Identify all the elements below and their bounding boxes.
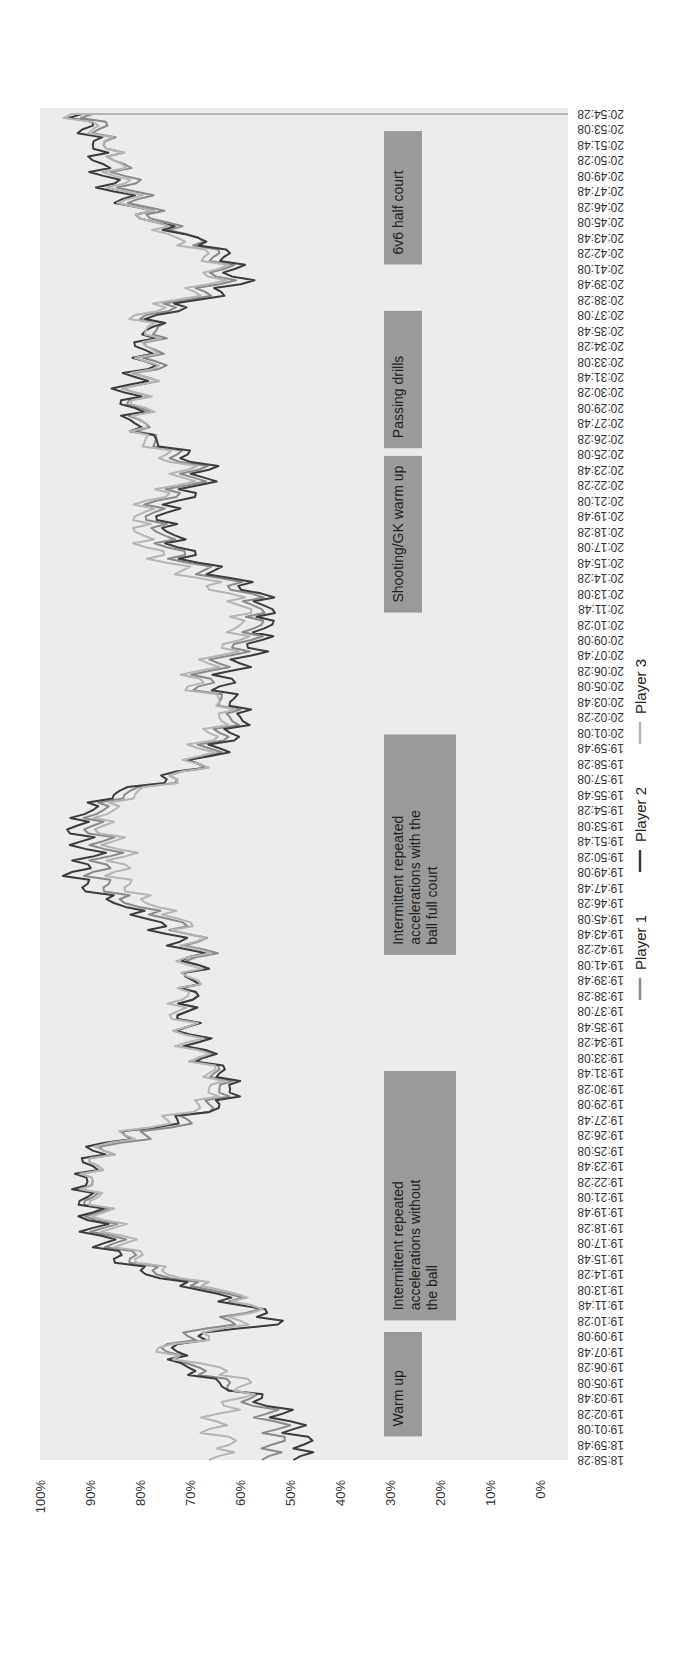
x-tick-label: 20:05:08 <box>577 679 624 693</box>
x-tick-label: 20:45:08 <box>577 215 624 229</box>
x-tick-label: 19:11:48 <box>578 1298 624 1312</box>
x-tick-label: 20:49:08 <box>577 169 624 183</box>
x-tick-label: 19:26:28 <box>577 1128 624 1142</box>
x-tick-label: 19:45:08 <box>577 912 624 926</box>
x-tick-label: 20:25:08 <box>577 447 624 461</box>
x-tick-label: 20:13:08 <box>577 587 624 601</box>
x-tick-label: 19:59:48 <box>577 741 624 755</box>
x-tick-label: 18:59:48 <box>577 1438 624 1452</box>
x-tick-label: 20:46:28 <box>577 200 624 214</box>
x-tick-label: 20:33:08 <box>577 355 624 369</box>
x-tick-label: 19:51:48 <box>577 834 624 848</box>
y-tick-label: 50% <box>283 1480 298 1506</box>
x-tick-label: 19:53:08 <box>577 819 624 833</box>
x-tick-label: 19:58:28 <box>577 757 624 771</box>
annotation-box: Intermittent repeatedaccelerations witho… <box>384 1071 456 1320</box>
x-tick-label: 20:50:28 <box>577 153 624 167</box>
x-tick-label: 19:27:48 <box>577 1113 624 1127</box>
legend-item: Player 3 <box>632 659 649 744</box>
x-tick-label: 19:17:08 <box>577 1236 624 1250</box>
x-tick-label: 20:19:48 <box>577 509 624 523</box>
x-tick-label: 19:10:28 <box>577 1314 624 1328</box>
x-tick-label: 19:33:08 <box>577 1051 624 1065</box>
x-tick-label: 19:55:48 <box>577 788 624 802</box>
y-tick-label: 30% <box>383 1480 398 1506</box>
x-tick-label: 19:06:28 <box>577 1360 624 1374</box>
x-tick-label: 19:09:08 <box>577 1329 624 1343</box>
x-tick-label: 19:38:28 <box>577 989 624 1003</box>
x-tick-label: 20:07:48 <box>577 648 624 662</box>
x-tick-label: 19:25:08 <box>577 1144 624 1158</box>
x-tick-label: 19:37:08 <box>577 1004 624 1018</box>
x-tick-label: 19:31:48 <box>577 1066 624 1080</box>
x-tick-label: 20:42:28 <box>577 246 624 260</box>
x-tick-label: 20:29:08 <box>577 401 624 415</box>
x-tick-label: 20:10:28 <box>577 618 624 632</box>
legend-item: Player 1 <box>632 915 649 1000</box>
x-tick-label: 20:03:48 <box>577 695 624 709</box>
x-tick-label: 20:23:48 <box>577 463 624 477</box>
y-tick-label: 60% <box>233 1480 248 1506</box>
x-tick-label: 20:27:48 <box>577 416 624 430</box>
y-tick-label: 10% <box>483 1480 498 1506</box>
x-tick-label: 19:19:48 <box>577 1205 624 1219</box>
x-tick-label: 20:30:28 <box>577 385 624 399</box>
y-tick-label: 0% <box>533 1480 548 1499</box>
x-tick-label: 19:34:28 <box>577 1035 624 1049</box>
x-tick-label: 19:35:48 <box>577 1020 624 1034</box>
x-tick-label: 20:34:28 <box>577 339 624 353</box>
annotation-label: Passing drills <box>390 356 406 438</box>
x-tick-label: 19:05:08 <box>577 1376 624 1390</box>
x-tick-label: 19:02:28 <box>577 1407 624 1421</box>
x-tick-label: 19:01:08 <box>577 1422 624 1436</box>
x-tick-label: 20:01:08 <box>577 726 624 740</box>
x-tick-label: 20:38:28 <box>577 293 624 307</box>
annotation-box: Intermittent repeatedaccelerations with … <box>384 734 456 954</box>
annotation-box: Passing drills <box>384 311 422 448</box>
x-tick-label: 19:47:48 <box>577 881 624 895</box>
x-axis-ticks: 18:58:2818:59:4819:01:0819:02:2819:03:48… <box>577 107 624 1467</box>
x-tick-label: 19:49:08 <box>577 865 624 879</box>
x-tick-label: 20:14:28 <box>577 571 624 585</box>
annotation-label: Shooting/GK warm up <box>390 465 406 602</box>
x-tick-label: 19:22:28 <box>577 1175 624 1189</box>
x-tick-label: 19:42:28 <box>577 942 624 956</box>
x-tick-label: 19:41:08 <box>577 958 624 972</box>
annotation-label: Warm up <box>390 1370 406 1426</box>
y-tick-label: 20% <box>433 1480 448 1506</box>
annotation-box: 6v6 half court <box>384 131 422 264</box>
x-tick-label: 19:39:48 <box>577 973 624 987</box>
x-tick-label: 20:47:48 <box>577 184 624 198</box>
x-tick-label: 19:14:28 <box>577 1267 624 1281</box>
x-tick-label: 19:57:08 <box>577 772 624 786</box>
legend-label: Player 3 <box>632 659 649 714</box>
x-tick-label: 20:26:28 <box>577 432 624 446</box>
x-tick-label: 18:58:28 <box>577 1453 624 1467</box>
x-tick-label: 19:07:48 <box>577 1345 624 1359</box>
x-tick-label: 20:35:48 <box>577 324 624 338</box>
x-tick-label: 20:09:08 <box>577 633 624 647</box>
x-tick-label: 19:18:28 <box>577 1221 624 1235</box>
x-tick-label: 19:29:08 <box>577 1097 624 1111</box>
y-tick-label: 80% <box>133 1480 148 1506</box>
x-tick-label: 20:51:48 <box>577 138 624 152</box>
y-axis-ticks: 0%10%20%30%40%50%60%70%80%90%100% <box>33 1480 548 1514</box>
chart-container: Warm upIntermittent repeatedacceleration… <box>0 0 684 1660</box>
annotation-label: 6v6 half court <box>390 170 406 254</box>
x-tick-label: 20:11:48 <box>578 602 624 616</box>
x-tick-label: 19:43:48 <box>577 927 624 941</box>
y-tick-label: 100% <box>33 1480 48 1514</box>
x-tick-label: 19:21:08 <box>577 1190 624 1204</box>
x-tick-label: 20:02:28 <box>577 710 624 724</box>
x-tick-label: 20:18:28 <box>577 525 624 539</box>
x-tick-label: 20:06:28 <box>577 664 624 678</box>
x-tick-label: 19:50:28 <box>577 850 624 864</box>
x-tick-label: 20:54:28 <box>577 107 624 121</box>
legend-label: Player 2 <box>632 787 649 842</box>
x-tick-label: 20:21:08 <box>577 494 624 508</box>
x-tick-label: 20:15:48 <box>577 556 624 570</box>
x-tick-label: 20:39:48 <box>577 277 624 291</box>
x-tick-label: 19:15:48 <box>577 1252 624 1266</box>
x-tick-label: 19:46:28 <box>577 896 624 910</box>
x-tick-label: 20:37:08 <box>577 308 624 322</box>
